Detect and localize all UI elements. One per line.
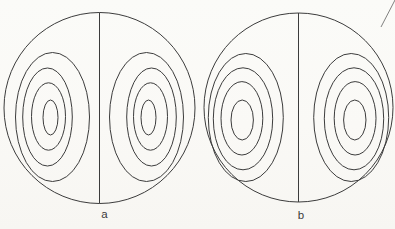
panel-a-right-contour-3: [134, 83, 168, 150]
panel-a-right-contour-4: [141, 100, 156, 135]
figure-svg: ab: [0, 0, 395, 229]
panel-a-label: a: [101, 208, 108, 220]
panel-b-left-contour-3: [221, 82, 263, 155]
panel-a-left-contour-3: [32, 83, 66, 150]
panel-b-right-contour-4: [344, 100, 366, 140]
scan-artifact-mark: [381, 0, 395, 27]
panel-a-left-contour-1: [16, 53, 90, 182]
panel-b-left-contour-1: [208, 54, 283, 182]
panel-b-right-contour-1: [314, 54, 389, 182]
panel-b-left-contour-4: [231, 100, 253, 140]
figure-panel: ab: [0, 0, 395, 229]
panel-a-right-contour-1: [110, 53, 184, 182]
panel-a-left-contour-4: [43, 100, 58, 135]
panel-b-label: b: [298, 209, 304, 221]
panel-b-right-contour-3: [334, 82, 376, 155]
